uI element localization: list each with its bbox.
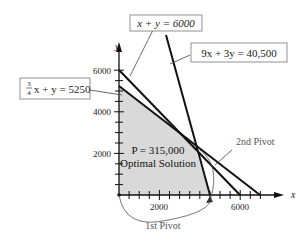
box-three-quarters-label: x + y = 5250 <box>34 83 91 95</box>
leader-x-plus-y <box>130 30 153 76</box>
optimal-solution-label: Optimal Solution <box>120 157 197 169</box>
box-9x-plus-3y-label: 9x + 3y = 40,500 <box>201 47 277 59</box>
y-tick-label-2000: 2000 <box>93 149 112 159</box>
pivot-arrow-icon <box>206 196 213 203</box>
fraction-numerator: 3 <box>27 80 31 88</box>
feasible-region <box>119 86 210 195</box>
linear-programming-graph: x + y = 6000 9x + 3y = 40,500 3 4 x + y … <box>0 0 302 245</box>
box-x-plus-y-label: x + y = 6000 <box>136 17 195 29</box>
y-tick-label-6000: 6000 <box>93 66 112 76</box>
first-pivot-label: 1st Pivot <box>145 220 181 231</box>
x-tick-label-2000: 2000 <box>150 202 169 212</box>
y-axis-label: y <box>114 41 119 51</box>
y-tick-label-4000: 4000 <box>93 107 112 117</box>
fraction-denominator: 4 <box>27 89 31 97</box>
leader-2nd-pivot <box>215 150 232 165</box>
second-pivot-label: 2nd Pivot <box>236 136 275 147</box>
x-axis-label: x <box>290 189 296 200</box>
x-tick-label-6000: 6000 <box>231 202 250 212</box>
x-axis-arrow-icon <box>274 192 284 198</box>
optimal-p-value: P = 315,000 <box>131 144 185 156</box>
